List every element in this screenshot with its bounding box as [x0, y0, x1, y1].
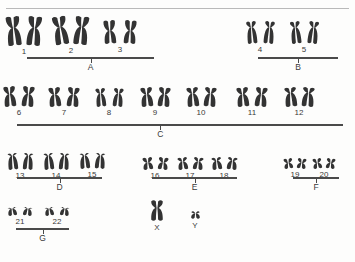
chromosome-pair-label-1: 1: [10, 47, 38, 56]
chromosome-pair-label-22: 22: [43, 217, 71, 226]
chromosome-21-homolog-a: [7, 207, 18, 216]
group-letter-E: E: [185, 183, 205, 192]
chromosome-15-homolog-b: [94, 153, 106, 169]
chromosome-17-homolog-a: [177, 157, 189, 170]
chromosome-pair-7: [48, 87, 80, 107]
chromosome-4-homolog-b: [263, 21, 275, 44]
chromosome-8-homolog-b: [112, 88, 124, 107]
chromosome-13-homolog-a: [7, 153, 19, 170]
chromosome-20-homolog-b: [325, 158, 336, 169]
sex-chromosome-Y: Y: [181, 211, 209, 230]
chromosome-pair-label-10: 10: [187, 108, 215, 117]
group-letter-G: G: [33, 234, 53, 243]
chromosome-pair-11: [236, 87, 268, 107]
chromosome-pair-label-12: 12: [285, 108, 313, 117]
sex-chromosome-label-Y: Y: [181, 221, 209, 230]
chromosome-pair-2: [53, 16, 89, 45]
chromosome-11-homolog-b: [254, 87, 268, 107]
chromosome-9-homolog-a: [140, 87, 154, 107]
chromosome-pair-14: [43, 153, 70, 170]
chromosome-16-homolog-a: [142, 157, 154, 170]
chromosome-2-homolog-a: [53, 16, 69, 45]
top-divider-rule: [6, 8, 349, 9]
chromosome-group-D: D: [17, 177, 102, 193]
chromosome-1-homolog-a: [6, 16, 22, 46]
chromosome-pair-15: [79, 153, 106, 169]
chromosome-14-homolog-a: [43, 153, 55, 170]
sex-chromosome-glyph-X: [143, 200, 171, 221]
chromosome-17-homolog-b: [192, 157, 204, 170]
chromosome-5-homolog-b: [307, 21, 319, 44]
chromosome-3-homolog-b: [123, 20, 137, 44]
group-letter-B: B: [288, 63, 308, 72]
chromosome-group-A: A: [27, 57, 154, 73]
chromosome-pair-20: [312, 158, 336, 169]
chromosome-12-homolog-b: [301, 87, 315, 107]
sex-chromosome-glyph-Y: [181, 211, 209, 219]
group-letter-C: C: [150, 130, 170, 139]
chromosome-pair-18: [211, 157, 238, 170]
chromosome-pair-label-6: 6: [5, 108, 33, 117]
chromosome-pair-10: [186, 87, 217, 107]
chromosome-pair-12: [284, 87, 315, 107]
chromosome-6-homolog-a: [3, 86, 17, 107]
chromosome-pair-label-8: 8: [95, 108, 123, 117]
chromosome-6-homolog-b: [21, 86, 35, 107]
chromosome-21-homolog-b: [22, 207, 33, 216]
chromosome-3-homolog-a: [103, 20, 117, 44]
chromosome-20-homolog-a: [312, 158, 323, 169]
group-bar-C: [17, 124, 343, 126]
chromosome-pair-19: [283, 158, 307, 169]
chromosome-group-C: C: [17, 124, 343, 140]
sex-chromosome-label-X: X: [143, 223, 171, 232]
chromosome-1-homolog-b: [26, 16, 42, 46]
chromosome-pair-21: [7, 207, 33, 216]
chromosome-group-B: B: [258, 57, 338, 73]
chromosome-pair-16: [142, 157, 169, 170]
chromosome-8-homolog-a: [95, 88, 107, 107]
chromosome-pair-3: [103, 20, 137, 44]
chromosome-2-homolog-b: [73, 16, 89, 45]
chromosome-pair-label-3: 3: [106, 45, 134, 54]
chromosome-9-homolog-b: [157, 87, 171, 107]
chromosome-pair-9: [140, 87, 171, 107]
chromosome-pair-17: [177, 157, 204, 170]
chromosome-7-homolog-a: [48, 87, 62, 107]
group-letter-D: D: [50, 183, 70, 192]
chromosome-pair-5: [290, 21, 319, 44]
chromosome-pair-label-4: 4: [246, 45, 274, 54]
chromosome-pair-6: [3, 86, 35, 107]
chromosome-15-homolog-a: [79, 153, 91, 169]
chromosome-16-homolog-b: [157, 157, 169, 170]
chromosome-pair-22: [44, 207, 70, 216]
chromosome-pair-8: [95, 88, 124, 107]
chromosome-10-homolog-b: [203, 87, 217, 107]
chromosome-7-homolog-b: [66, 87, 80, 107]
chromosome-10-homolog-a: [186, 87, 200, 107]
group-letter-F: F: [306, 183, 326, 192]
chromosome-4-homolog-a: [246, 21, 258, 44]
chromosome-pair-1: [6, 16, 42, 46]
chromosome-22-homolog-b: [59, 207, 70, 216]
chromosome-19-homolog-a: [283, 158, 294, 169]
chromosome-pair-label-2: 2: [57, 46, 85, 55]
chromosome-18-homolog-a: [211, 157, 223, 170]
chromosome-18-homolog-b: [226, 157, 238, 170]
chromosome-group-G: G: [16, 228, 69, 244]
chromosome-pair-13: [7, 153, 34, 170]
chromosome-22-homolog-a: [44, 207, 55, 216]
chromosome-19-homolog-b: [296, 158, 307, 169]
chromosome-14-homolog-b: [58, 153, 70, 170]
chromosome-12-homolog-a: [284, 87, 298, 107]
chromosome-group-F: F: [293, 177, 339, 193]
chromosome-5-homolog-a: [290, 21, 302, 44]
chromosome-11-homolog-a: [236, 87, 250, 107]
chromosome-group-E: E: [152, 177, 237, 193]
chromosome-pair-label-21: 21: [6, 217, 34, 226]
chromosome-pair-label-7: 7: [50, 108, 78, 117]
chromosome-pair-4: [246, 21, 275, 44]
chromosome-13-homolog-b: [22, 153, 34, 170]
group-letter-A: A: [81, 63, 101, 72]
chromosome-pair-label-11: 11: [238, 108, 266, 117]
karyotype-figure: 12345678910111213141516171819202122 ABCD…: [0, 0, 355, 262]
